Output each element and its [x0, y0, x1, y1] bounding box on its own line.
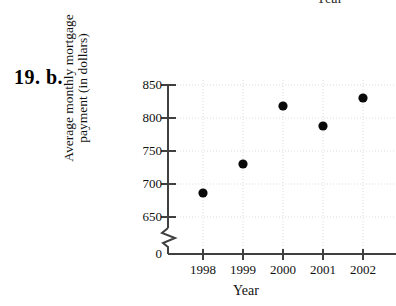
x-tick-label: 1999 — [230, 262, 256, 278]
y-axis-tick-labels: 850 800 750 700 650 0 — [120, 0, 162, 306]
y-axis-line — [162, 84, 175, 254]
x-axis-tick-labels: 1998 1999 2000 2001 2002 — [0, 262, 396, 282]
y-tick-label: 800 — [143, 110, 163, 126]
x-tick-label: 2001 — [310, 262, 336, 278]
data-point — [238, 159, 247, 168]
scatter-plot-figure: Year 19. b. Average monthly mortgage pay… — [0, 0, 396, 306]
data-point — [318, 121, 327, 130]
data-point — [358, 93, 367, 102]
x-tick-label: 2002 — [350, 262, 376, 278]
data-points — [198, 93, 367, 197]
y-axis-origin-label: 0 — [156, 246, 163, 262]
y-tick-label: 750 — [143, 143, 163, 159]
x-tick-label: 1998 — [190, 262, 216, 278]
y-tick-label: 650 — [143, 209, 163, 225]
data-point — [198, 188, 207, 197]
y-tick-label: 700 — [143, 176, 163, 192]
x-tick-label: 2000 — [270, 262, 296, 278]
y-tick-label: 850 — [143, 77, 163, 93]
y-axis-break-symbol — [162, 228, 175, 254]
x-axis-title: Year — [233, 283, 259, 299]
data-point — [278, 101, 287, 110]
plot-canvas — [0, 0, 396, 306]
